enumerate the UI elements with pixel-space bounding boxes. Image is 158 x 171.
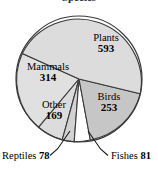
slice-label-birds-value: 253 [88,102,130,114]
slice-label-fishes: Fishes 81 [111,151,151,162]
slice-label-reptiles-name: Reptiles [2,150,36,161]
slice-label-reptiles: Reptiles 78 [2,151,50,162]
slice-label-fishes-value: 81 [140,150,151,161]
slice-label-mammals: Mammals 314 [19,61,77,84]
slice-label-mammals-value: 314 [19,72,77,84]
slice-label-fishes-name: Fishes [111,150,138,161]
slice-label-reptiles-value: 78 [39,150,50,161]
pie-graphic [0,0,158,171]
slice-label-other: Other 169 [33,99,75,122]
slice-label-plants-value: 593 [79,43,133,55]
slice-label-other-value: 169 [33,110,75,122]
slice-label-birds: Birds 253 [88,91,130,114]
slice-label-plants: Plants 593 [79,32,133,55]
pie-chart-figure: Species Plants 593 Mammals 314 Birds 253 [0,0,158,171]
